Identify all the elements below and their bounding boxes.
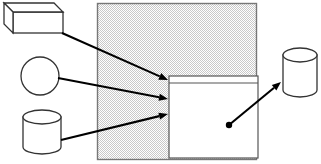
circle-body [21, 57, 59, 95]
diagram-svg [0, 0, 321, 164]
cuboid-front-face [13, 12, 63, 33]
cuboid-top-face [4, 3, 63, 12]
inner-panel-group[interactable] [169, 76, 258, 158]
inner-panel-body[interactable] [169, 76, 258, 158]
diagram-canvas [0, 0, 321, 164]
arrow-tail-dot [226, 122, 232, 128]
cylinder-node-left[interactable] [23, 110, 61, 154]
circle-node[interactable] [21, 57, 59, 95]
cuboid-node[interactable] [4, 3, 63, 33]
cylinder-top-ellipse [23, 110, 61, 124]
cylinder-top-ellipse [283, 48, 317, 62]
cylinder-node-right[interactable] [283, 48, 317, 97]
